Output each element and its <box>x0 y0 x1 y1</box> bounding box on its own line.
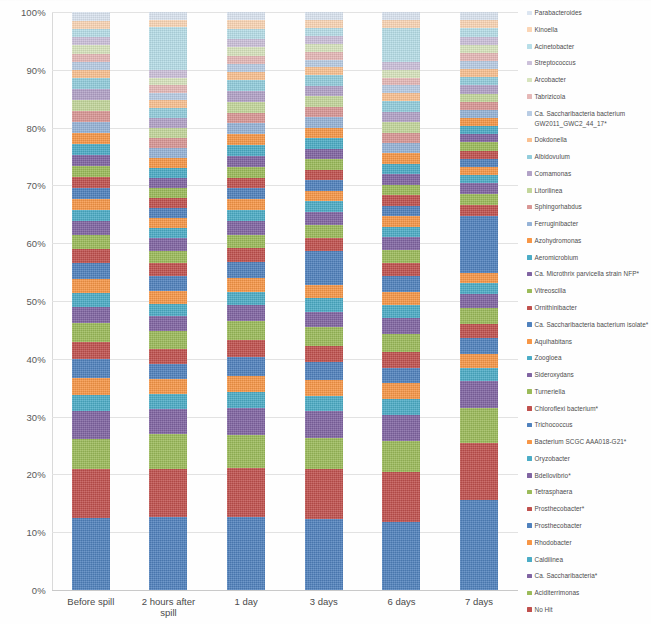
bar-segment[interactable] <box>149 251 187 264</box>
bar-segment[interactable] <box>460 175 498 183</box>
bar-segment[interactable] <box>460 94 498 102</box>
bar-segment[interactable] <box>305 238 343 251</box>
bar-segment[interactable] <box>227 47 265 55</box>
bar-segment[interactable] <box>460 61 498 69</box>
bar-segment[interactable] <box>72 62 110 70</box>
bar-segment[interactable] <box>72 122 110 133</box>
bar-segment[interactable] <box>227 167 265 178</box>
legend-item[interactable]: Rhodobacter <box>527 538 651 548</box>
legend-item[interactable]: Zoogloea <box>527 353 651 363</box>
bar-segment[interactable] <box>149 118 187 128</box>
legend-item[interactable]: Vitreoscilla <box>527 286 651 296</box>
bar-segment[interactable] <box>149 469 187 517</box>
legend-item[interactable]: Sphingorhabdus <box>527 202 651 212</box>
bar-segment[interactable] <box>149 27 187 70</box>
bar-segment[interactable] <box>149 316 187 331</box>
bar-segment[interactable] <box>149 148 187 158</box>
bar-segment[interactable] <box>460 183 498 194</box>
bar-segment[interactable] <box>227 517 265 590</box>
stacked-bar[interactable] <box>460 12 498 590</box>
bar-segment[interactable] <box>382 250 420 263</box>
bar-segment[interactable] <box>305 128 343 139</box>
bar-segment[interactable] <box>149 238 187 251</box>
bar-segment[interactable] <box>227 188 265 199</box>
bar-segment[interactable] <box>460 126 498 134</box>
bar-segment[interactable] <box>382 415 420 441</box>
bar-segment[interactable] <box>382 85 420 93</box>
bar-segment[interactable] <box>382 153 420 163</box>
bar-segment[interactable] <box>149 108 187 118</box>
bar-segment[interactable] <box>227 262 265 278</box>
bar-segment[interactable] <box>72 395 110 412</box>
bar-segment[interactable] <box>149 20 187 28</box>
bar-segment[interactable] <box>382 185 420 195</box>
bar-segment[interactable] <box>149 331 187 349</box>
bar-segment[interactable] <box>382 352 420 368</box>
bar-segment[interactable] <box>149 276 187 291</box>
bar-segment[interactable] <box>149 93 187 101</box>
legend-item[interactable]: Dokdonella <box>527 135 651 145</box>
bar-segment[interactable] <box>382 112 420 122</box>
bar-segment[interactable] <box>460 151 498 159</box>
bar-segment[interactable] <box>460 381 498 408</box>
stacked-bar[interactable] <box>72 12 110 590</box>
legend-item[interactable]: Arcobacter <box>527 75 651 85</box>
bar-segment[interactable] <box>305 159 343 170</box>
bar-segment[interactable] <box>72 307 110 324</box>
legend-item[interactable]: No Hit <box>527 605 651 615</box>
bar-segment[interactable] <box>305 411 343 437</box>
bar-segment[interactable] <box>382 292 420 305</box>
bar-segment[interactable] <box>460 324 498 338</box>
bar-segment[interactable] <box>382 93 420 101</box>
bar-segment[interactable] <box>382 441 420 472</box>
bar-segment[interactable] <box>460 77 498 85</box>
bar-segment[interactable] <box>227 305 265 321</box>
bar-segment[interactable] <box>305 298 343 311</box>
bar-segment[interactable] <box>305 96 343 107</box>
bar-segment[interactable] <box>72 45 110 53</box>
bar-segment[interactable] <box>227 123 265 134</box>
bar-segment[interactable] <box>72 439 110 469</box>
bar-segment[interactable] <box>460 134 498 142</box>
bar-segment[interactable] <box>72 411 110 439</box>
legend-item[interactable]: Prosthecobacter <box>527 521 651 531</box>
stacked-bar[interactable] <box>227 12 265 590</box>
bar-segment[interactable] <box>460 205 498 216</box>
bar-segment[interactable] <box>72 279 110 293</box>
bar-segment[interactable] <box>149 178 187 188</box>
bar-segment[interactable] <box>149 70 187 78</box>
bar-segment[interactable] <box>149 434 187 469</box>
bar-segment[interactable] <box>460 53 498 61</box>
legend-item[interactable]: Prosthecobacter* <box>527 504 651 514</box>
bar-segment[interactable] <box>382 237 420 250</box>
bar-segment[interactable] <box>460 167 498 175</box>
bar-segment[interactable] <box>227 64 265 72</box>
legend-item[interactable]: Aquihabitans <box>527 337 651 347</box>
bar-segment[interactable] <box>305 86 343 97</box>
legend-item[interactable]: Sideroxydans <box>527 370 651 380</box>
bar-segment[interactable] <box>382 522 420 590</box>
bar-segment[interactable] <box>305 312 343 328</box>
legend-item[interactable]: Litorilinea <box>527 186 651 196</box>
bar-segment[interactable] <box>72 177 110 188</box>
stacked-bar[interactable] <box>305 12 343 590</box>
bar-segment[interactable] <box>72 70 110 78</box>
legend-item[interactable]: Acinetobacter <box>527 42 651 52</box>
bar-segment[interactable] <box>149 100 187 108</box>
bar-segment[interactable] <box>460 69 498 77</box>
bar-segment[interactable] <box>382 20 420 28</box>
bar-segment[interactable] <box>305 117 343 128</box>
bar-segment[interactable] <box>382 62 420 70</box>
bar-segment[interactable] <box>149 208 187 218</box>
bar-segment[interactable] <box>227 134 265 145</box>
bar-segment[interactable] <box>149 218 187 228</box>
bar-segment[interactable] <box>227 12 265 20</box>
bar-segment[interactable] <box>227 248 265 262</box>
legend-item[interactable]: Chloroflexi bacterium* <box>527 404 651 414</box>
bar-segment[interactable] <box>382 216 420 226</box>
bar-segment[interactable] <box>460 273 498 284</box>
bar-segment[interactable] <box>305 44 343 52</box>
bar-segment[interactable] <box>460 500 498 590</box>
legend-item[interactable]: Streptococcus <box>527 58 651 68</box>
bar-segment[interactable] <box>149 364 187 379</box>
